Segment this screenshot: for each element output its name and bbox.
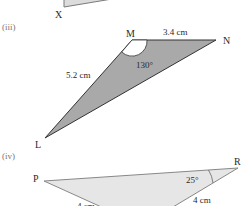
vertex-l-label: L [35, 139, 41, 150]
angle-r-label: 25° [186, 175, 199, 185]
side-r-label: 4 cm [193, 195, 211, 205]
part-iv-label: (iv) [2, 151, 15, 161]
side-p-label: 4 cm [77, 201, 95, 206]
vertex-m-label: M [126, 28, 135, 39]
triangle-pqr: P R 25° 4 cm 4 cm [33, 156, 241, 206]
vertex-n-label: N [223, 35, 230, 46]
triangle-lmn: M N L 3.4 cm 5.2 cm 130° [35, 27, 230, 150]
geometry-figures: X (iii) M N L 3.4 cm 5.2 cm 130° (iv) P … [0, 0, 243, 206]
vertex-r-label: R [234, 156, 241, 167]
side-ml-label: 5.2 cm [66, 70, 91, 80]
part-iii-label: (iii) [2, 22, 16, 32]
side-mn-label: 3.4 cm [163, 27, 188, 37]
angle-m-label: 130° [136, 60, 154, 70]
triangle-x-shape [64, 0, 118, 7]
vertex-x-label: X [55, 9, 63, 20]
triangle-x: X [55, 0, 118, 20]
vertex-p-label: P [33, 173, 39, 184]
